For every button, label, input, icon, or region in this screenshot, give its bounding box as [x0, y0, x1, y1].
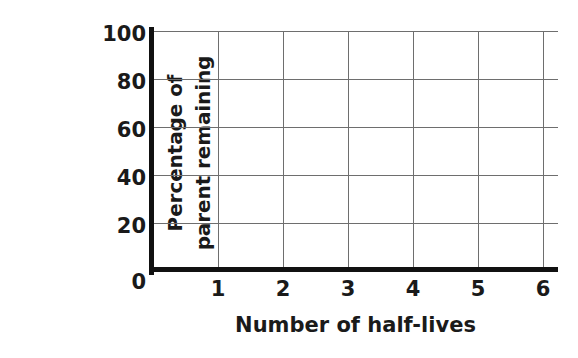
- x-tick-label-3: 3: [328, 279, 368, 300]
- x-tick-label-4: 4: [393, 279, 433, 300]
- chart-figure: Percentage of parent remaining 100 80 60…: [0, 0, 578, 358]
- x-tick-label-5: 5: [458, 279, 498, 300]
- x-axis-title: Number of half-lives: [153, 313, 558, 337]
- x-axis-tick-labels: 1 2 3 4 5 6: [0, 0, 578, 358]
- x-tick-label-2: 2: [263, 279, 303, 300]
- x-tick-label-6: 6: [523, 279, 563, 300]
- x-tick-label-1: 1: [198, 279, 238, 300]
